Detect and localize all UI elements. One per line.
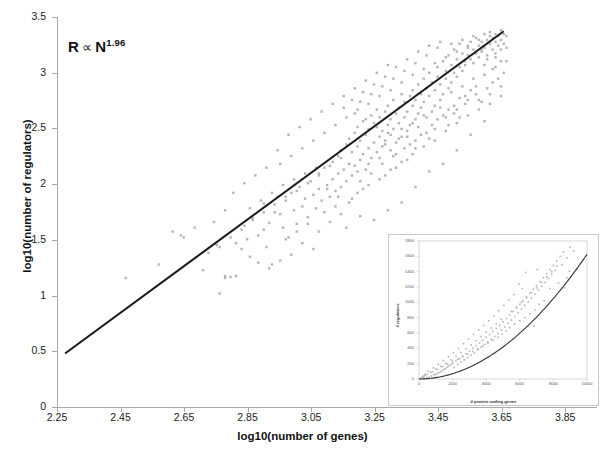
inset-tick-marks (417, 241, 587, 381)
inset-x-tick-label: 6000 (507, 382, 533, 386)
inset-fit-curve (419, 254, 587, 379)
inset-x-tick-label: 2000 (440, 382, 466, 386)
inset-y-tick-label: 0 (392, 377, 414, 381)
inset-y-tick-label: 1800 (392, 239, 414, 243)
x-tick-label: 3.65 (476, 412, 528, 423)
inset-x-tick-label: 0 (406, 382, 432, 386)
x-axis-line (57, 407, 597, 408)
x-tick-label: 2.85 (222, 412, 274, 423)
inset-scatter-plot (389, 235, 596, 403)
inset-x-axis-title: # protein coding genes (389, 399, 598, 404)
inset-plot-frame (419, 241, 587, 379)
inset-y-tick-label: 1200 (392, 285, 414, 289)
x-axis-title: log10(number of genes) (0, 430, 605, 442)
inset-y-tick-label: 1400 (392, 270, 414, 274)
inset-y-tick-label: 1000 (392, 300, 414, 304)
inset-y-tick-label: 200 (392, 362, 414, 366)
x-tick-label: 2.45 (95, 412, 147, 423)
x-tick-label: 2.25 (31, 412, 83, 423)
inset-x-tick-label: 4000 (473, 382, 499, 386)
inset-chart: # protein coding genes # regulators 0200… (388, 234, 599, 406)
inset-y-tick-label: 800 (392, 316, 414, 320)
inset-x-tick-label: 8000 (540, 382, 566, 386)
inset-scatter-points (420, 246, 578, 379)
x-tick-label: 3.25 (349, 412, 401, 423)
x-tick-label: 3.45 (412, 412, 464, 423)
inset-y-tick-label: 1600 (392, 254, 414, 258)
inset-x-tick-label: 10000 (574, 382, 600, 386)
x-tick-label: 3.85 (539, 412, 591, 423)
inset-y-tick-label: 400 (392, 346, 414, 350)
y-tick-label: 0 (0, 401, 46, 412)
inset-y-tick-label: 600 (392, 331, 414, 335)
figure-container: log10(number of genes) log10(number of r… (0, 0, 605, 449)
x-tick-label: 2.65 (158, 412, 210, 423)
x-tick-label: 3.05 (285, 412, 337, 423)
